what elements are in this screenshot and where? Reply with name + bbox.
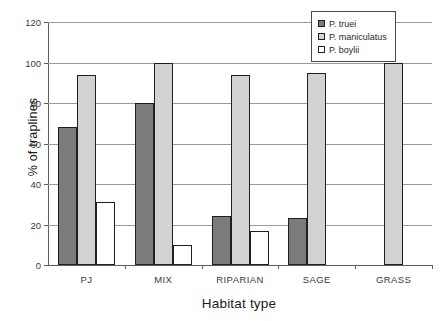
- y-tick-mark: [44, 265, 48, 266]
- y-tick-label: 20: [30, 219, 41, 230]
- legend-swatch-icon: [318, 20, 325, 27]
- bar: [307, 73, 326, 265]
- legend-item: P. maniculatus: [318, 30, 387, 43]
- bar: [231, 75, 250, 265]
- x-tick-mark: [278, 265, 279, 269]
- x-tick-label: SAGE: [303, 274, 331, 285]
- bar: [173, 245, 192, 265]
- legend-item: P. truei: [318, 17, 387, 30]
- y-tick-label: 40: [30, 179, 41, 190]
- y-tick-label: 80: [30, 98, 41, 109]
- x-tick-mark: [125, 265, 126, 269]
- x-axis-title: Habitat type: [40, 296, 438, 311]
- bar: [384, 63, 403, 266]
- bar: [288, 218, 307, 265]
- bar: [250, 231, 269, 265]
- legend-label: P. truei: [329, 19, 356, 29]
- legend-item: P. boylii: [318, 43, 387, 56]
- bar: [58, 127, 77, 265]
- legend-swatch-icon: [318, 33, 325, 40]
- y-tick-label: 60: [30, 138, 41, 149]
- y-tick-label: 0: [36, 260, 41, 271]
- bar: [212, 216, 231, 265]
- bar: [77, 75, 96, 265]
- bar: [96, 202, 115, 265]
- bar-chart-figure: % of traplines 020406080100120 PJMIXRIPA…: [0, 0, 440, 321]
- bar: [154, 63, 173, 266]
- legend-label: P. boylii: [329, 45, 359, 55]
- y-tick-label: 120: [25, 17, 41, 28]
- bar: [135, 103, 154, 265]
- x-tick-label: PJ: [80, 274, 92, 285]
- x-tick-label: RIPARIAN: [216, 274, 263, 285]
- legend-label: P. maniculatus: [329, 32, 387, 42]
- legend-swatch-icon: [318, 46, 325, 53]
- y-axis-title: % of traplines: [26, 57, 40, 217]
- chart-legend: P. trueiP. maniculatusP. boylii: [311, 11, 396, 62]
- x-tick-label: MIX: [154, 274, 172, 285]
- x-axis-line: [48, 265, 432, 266]
- x-tick-label: GRASS: [376, 274, 411, 285]
- x-tick-mark: [202, 265, 203, 269]
- x-tick-mark: [432, 265, 433, 269]
- x-tick-mark: [355, 265, 356, 269]
- y-tick-label: 100: [25, 57, 41, 68]
